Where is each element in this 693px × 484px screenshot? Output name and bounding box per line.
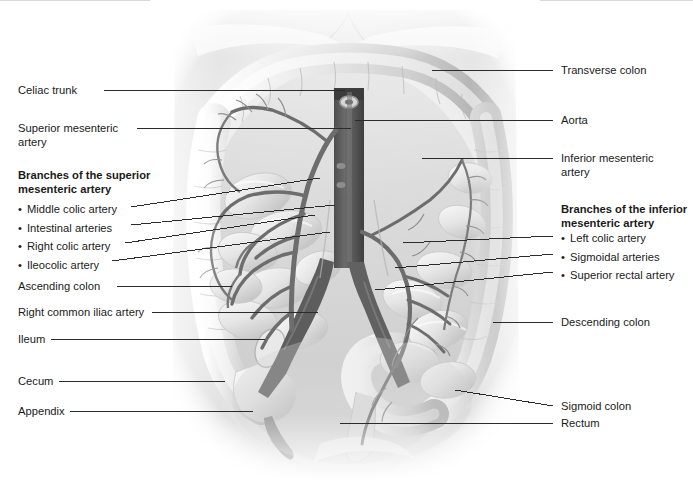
label-ileum: Ileum xyxy=(18,333,45,347)
bullet-dot-icon: • xyxy=(561,248,570,267)
list-item-middle-colic-artery: •Middle colic artery xyxy=(18,200,117,219)
label-sigmoid-colon: Sigmoid colon xyxy=(561,400,631,414)
list-item-sigmoidal-arteries: •Sigmoidal arteries xyxy=(561,248,674,267)
label-descending-colon: Descending colon xyxy=(561,316,650,330)
label-cecum: Cecum xyxy=(18,375,53,389)
label-ascending-colon: Ascending colon xyxy=(18,280,100,294)
list-item-intestinal-arteries: •Intestinal arteries xyxy=(18,219,117,238)
bullet-dot-icon: • xyxy=(561,266,570,285)
bullet-dot-icon: • xyxy=(18,237,27,256)
list-item-superior-rectal-artery: •Superior rectal artery xyxy=(561,266,674,285)
label-transverse-colon: Transverse colon xyxy=(561,64,646,78)
list-item-right-colic-artery: •Right colic artery xyxy=(18,237,117,256)
bullet-dot-icon: • xyxy=(18,200,27,219)
label-appendix: Appendix xyxy=(18,405,65,419)
heading-branches-inferior-mesenteric-artery: Branches of the inferior mesenteric arte… xyxy=(561,203,687,230)
bullet-dot-icon: • xyxy=(561,229,570,248)
label-superior-mesenteric-artery: Superior mesenteric artery xyxy=(18,122,118,149)
bullet-dot-icon: • xyxy=(18,256,27,275)
heading-branches-superior-mesenteric-artery: Branches of the superior mesenteric arte… xyxy=(18,169,150,196)
list-item-ileocolic-artery: •Ileocolic artery xyxy=(18,256,117,275)
list-branches-inferior-mesenteric-artery: •Left colic artery •Sigmoidal arteries •… xyxy=(561,229,674,285)
label-right-common-iliac-artery: Right common iliac artery xyxy=(18,306,144,320)
list-item-left-colic-artery: •Left colic artery xyxy=(561,229,674,248)
label-inferior-mesenteric-artery: Inferior mesenteric artery xyxy=(561,152,654,179)
list-branches-superior-mesenteric-artery: •Middle colic artery •Intestinal arterie… xyxy=(18,200,117,274)
bullet-dot-icon: • xyxy=(18,219,27,238)
label-aorta: Aorta xyxy=(561,114,588,128)
label-celiac-trunk: Celiac trunk xyxy=(18,84,77,98)
label-rectum: Rectum xyxy=(561,417,600,431)
